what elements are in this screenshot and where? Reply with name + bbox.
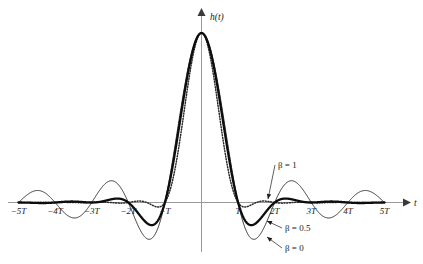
annotation-beta1: β = 1 [267, 160, 297, 199]
y-axis-arrowhead [198, 8, 206, 16]
x-axis-arrowhead [403, 199, 411, 207]
leader-line [268, 165, 275, 199]
raised-cosine-impulse-response-figure: −5T−4T−3T−2T−TT2T3T4T5T h(t) t β = 1β = … [0, 0, 423, 264]
x-tick-label: −3T [84, 206, 101, 216]
leader-arrowhead [267, 194, 271, 199]
x-tick-label: −5T [11, 206, 28, 216]
annotation-label: β = 0.5 [285, 223, 311, 233]
x-tick-labels-group: −5T−4T−3T−2T−TT2T3T4T5T [11, 206, 391, 216]
x-tick-label: −2T [121, 206, 138, 216]
x-tick-label: 3T [306, 206, 318, 216]
annotation-label: β = 0 [285, 243, 304, 253]
x-tick-label: 4T [343, 206, 354, 216]
x-axis-label: t [414, 198, 417, 208]
x-tick-label: 2T [270, 206, 281, 216]
x-tick-label: 5T [380, 206, 391, 216]
x-tick-label: −4T [47, 206, 64, 216]
annotation-beta05: β = 0.5 [267, 221, 311, 233]
annotation-beta0: β = 0 [267, 237, 304, 253]
annotation-label: β = 1 [278, 160, 297, 170]
plot-canvas: −5T−4T−3T−2T−TT2T3T4T5T h(t) t β = 1β = … [0, 0, 423, 264]
y-axis-label: h(t) [210, 12, 224, 23]
leader-arrowhead [267, 237, 272, 242]
x-tick-label: −T [159, 206, 171, 216]
